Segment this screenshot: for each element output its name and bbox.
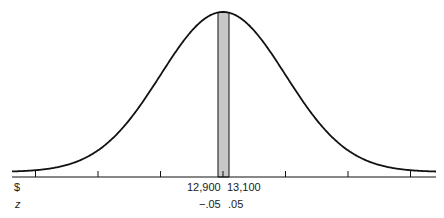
normal-distribution-chart: [0, 0, 444, 218]
shaded-region: [218, 12, 229, 177]
dollar-row-label: $: [14, 181, 20, 193]
z-tick-label-right: .05: [228, 198, 243, 210]
dollar-tick-label-right: 13,100: [227, 181, 261, 193]
z-row-label: z: [15, 198, 21, 210]
axis-ticks: [36, 171, 411, 177]
z-tick-label-left: −.05: [199, 198, 221, 210]
dollar-tick-label-left: 12,900: [187, 181, 221, 193]
